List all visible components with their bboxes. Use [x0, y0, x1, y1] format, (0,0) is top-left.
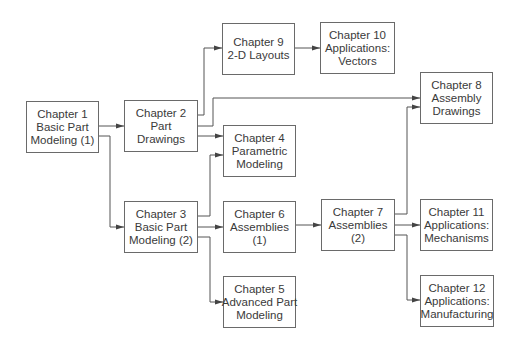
edge-ch2-ch9 — [197, 48, 222, 115]
node-line: Modeling (2) — [129, 234, 193, 247]
node-line: Chapter 5 — [234, 283, 285, 296]
edge-ch2-ch8 — [197, 98, 420, 126]
node-line: Chapter 12 — [429, 282, 486, 295]
node-line: Chapter 6 — [234, 208, 285, 221]
node-line: Chapter 3 — [136, 208, 187, 221]
node-chapter-9: Chapter 9 2-D Layouts — [222, 23, 295, 75]
node-line: Chapter 11 — [428, 206, 484, 219]
node-line: (1) — [252, 234, 266, 247]
node-chapter-2: Chapter 2 Part Drawings — [124, 100, 198, 152]
node-line: Chapter 7 — [333, 206, 384, 219]
node-line: Drawings — [433, 105, 481, 118]
node-line: Chapter 4 — [234, 132, 285, 145]
node-line: Modeling (1) — [31, 134, 95, 147]
node-line: Part — [150, 120, 171, 133]
node-line: Basic Part — [36, 121, 88, 134]
node-line: Vectors — [338, 55, 376, 68]
node-line: Chapter 10 — [329, 29, 386, 42]
node-line: Advanced Part — [222, 296, 297, 309]
node-line: 2-D Layouts — [227, 49, 289, 62]
node-chapter-10: Chapter 10 Applications: Vectors — [320, 22, 395, 74]
node-line: Manufacturing — [421, 308, 494, 321]
node-line: Assemblies — [230, 221, 289, 234]
node-chapter-1: Chapter 1 Basic Part Modeling (1) — [26, 101, 99, 153]
node-line: Chapter 2 — [136, 107, 187, 120]
node-line: (2) — [351, 232, 365, 245]
node-line: Basic Part — [135, 221, 187, 234]
node-line: Drawings — [137, 133, 185, 146]
edge-ch7-ch8 — [394, 107, 420, 214]
edge-ch7-ch12 — [394, 235, 420, 300]
node-chapter-7: Chapter 7 Assemblies (2) — [321, 199, 395, 251]
node-line: Modeling — [236, 158, 283, 171]
edge-ch3-ch4 — [197, 155, 223, 216]
node-chapter-4: Chapter 4 Parametric Modeling — [223, 125, 296, 177]
node-line: Chapter 9 — [233, 36, 284, 49]
node-line: Parametric — [232, 145, 288, 158]
node-chapter-12: Chapter 12 Applications: Manufacturing — [420, 275, 494, 327]
node-line: Modeling — [236, 309, 283, 322]
node-chapter-6: Chapter 6 Assemblies (1) — [223, 201, 296, 253]
node-line: Chapter 1 — [37, 108, 88, 121]
node-line: Assembly — [432, 92, 482, 105]
node-line: Mechanisms — [424, 232, 489, 245]
node-line: Chapter 8 — [431, 79, 482, 92]
edge-ch3-ch5 — [197, 237, 223, 302]
node-line: Assemblies — [329, 219, 388, 232]
node-line: Applications: — [424, 219, 489, 232]
node-chapter-8: Chapter 8 Assembly Drawings — [420, 72, 493, 124]
node-chapter-5: Chapter 5 Advanced Part Modeling — [223, 276, 296, 328]
node-line: Applications: — [325, 42, 390, 55]
node-chapter-11: Chapter 11 Applications: Mechanisms — [420, 199, 493, 251]
edge-ch1-ch3 — [98, 136, 124, 227]
node-line: Applications: — [424, 295, 489, 308]
node-chapter-3: Chapter 3 Basic Part Modeling (2) — [124, 201, 198, 253]
